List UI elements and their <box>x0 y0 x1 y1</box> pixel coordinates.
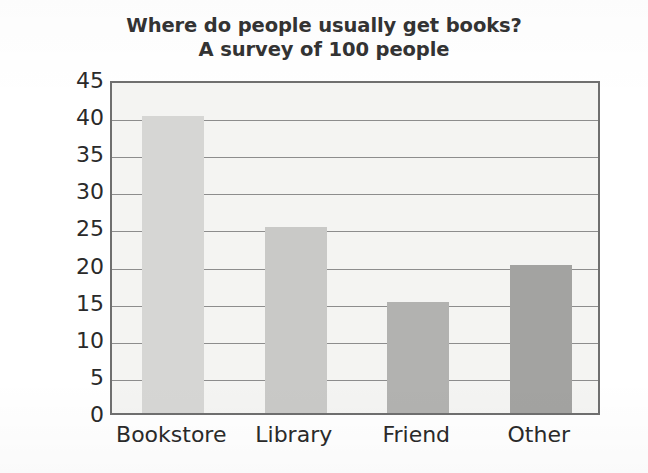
y-axis-tick-labels: 454035302520151050 <box>40 81 104 415</box>
y-axis-tick-label: 0 <box>40 404 104 426</box>
y-axis-tick-label: 10 <box>40 330 104 352</box>
bar-other <box>510 265 572 413</box>
bar-friend <box>387 302 449 413</box>
y-axis-tick-label: 30 <box>40 181 104 203</box>
plot-area <box>110 81 600 415</box>
y-axis-tick-label: 25 <box>40 218 104 240</box>
y-axis-tick-label: 35 <box>40 144 104 166</box>
y-axis-tick-label: 15 <box>40 293 104 315</box>
bar-chart-figure: Where do people usually get books? A sur… <box>0 0 648 473</box>
bar-library <box>265 227 327 413</box>
x-axis-tick-label-friend: Friend <box>355 421 478 449</box>
y-axis-tick-label: 5 <box>40 367 104 389</box>
chart-title-line-1: Where do people usually get books? <box>0 14 648 38</box>
y-axis-tick-label: 45 <box>40 70 104 92</box>
plot-inner <box>112 83 598 413</box>
x-axis-tick-labels: BookstoreLibraryFriendOther <box>110 421 600 461</box>
y-axis-tick-label: 20 <box>40 256 104 278</box>
bar-bookstore <box>142 116 204 413</box>
y-axis-tick-label: 40 <box>40 107 104 129</box>
chart-title: Where do people usually get books? A sur… <box>0 14 648 62</box>
x-axis-tick-label-bookstore: Bookstore <box>110 421 233 449</box>
x-axis-tick-label-other: Other <box>478 421 601 449</box>
x-axis-tick-label-library: Library <box>233 421 356 449</box>
chart-title-line-2: A survey of 100 people <box>0 38 648 62</box>
